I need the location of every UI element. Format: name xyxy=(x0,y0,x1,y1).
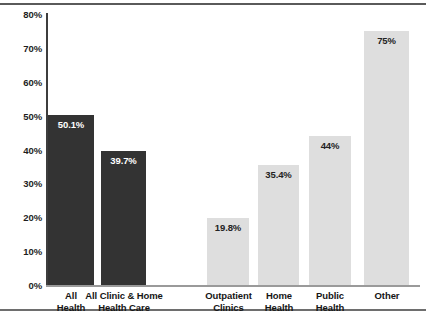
bar-value-label-public-health: 44% xyxy=(309,140,351,151)
y-axis-tick-50: 50% xyxy=(0,110,42,121)
bar-public-health[interactable] xyxy=(309,136,351,285)
category-label-line: Public xyxy=(303,290,357,302)
y-axis-tick-0: 0% xyxy=(0,280,42,291)
bar-value-label-all-health: 50.1% xyxy=(48,119,94,130)
y-axis-tick-40: 40% xyxy=(0,144,42,155)
y-axis-tick-60: 60% xyxy=(0,76,42,87)
category-label-line: All Clinic & Home xyxy=(82,290,166,302)
category-label-line: Clinics xyxy=(199,302,258,314)
bar-value-label-all-clinic-and-home-health-care: 39.7% xyxy=(101,155,146,166)
y-axis-tick-80: 80% xyxy=(0,9,42,20)
category-label-line: Health xyxy=(252,302,306,314)
bar-chart-figure: 0%10%20%30%40%50%60%70%80% 50.1%39.7%19.… xyxy=(0,0,426,315)
x-axis-baseline xyxy=(46,285,420,287)
bar-all-clinic-and-home-health-care[interactable] xyxy=(101,151,146,285)
bar-value-label-other: 75% xyxy=(364,35,409,46)
category-label-other: Other xyxy=(358,290,416,302)
y-axis-tick-10: 10% xyxy=(0,246,42,257)
y-axis-tick-20: 20% xyxy=(0,212,42,223)
category-label-all-clinic-and-home-health-care: All Clinic & HomeHealth Care xyxy=(82,290,166,313)
bar-other[interactable] xyxy=(364,31,409,285)
y-axis-tick-labels: 0%10%20%30%40%50%60%70%80% xyxy=(0,0,42,315)
y-axis-tick-30: 30% xyxy=(0,178,42,189)
bar-value-label-outpatient-clinics: 19.8% xyxy=(207,222,249,233)
category-label-line: Home xyxy=(252,290,306,302)
bar-value-label-home-health: 35.4% xyxy=(258,169,299,180)
category-label-public-health: PublicHealth xyxy=(303,290,357,313)
category-label-line: Outpatient xyxy=(199,290,258,302)
category-label-line: Health Care xyxy=(82,302,166,314)
y-axis-tick-70: 70% xyxy=(0,42,42,53)
bar-all-health[interactable] xyxy=(48,115,94,285)
category-label-line: Health xyxy=(303,302,357,314)
top-divider-rule xyxy=(0,3,426,5)
category-label-line: Other xyxy=(358,290,416,302)
category-label-outpatient-clinics: OutpatientClinics xyxy=(199,290,258,313)
category-label-home-health: HomeHealth xyxy=(252,290,306,313)
bar-home-health[interactable] xyxy=(258,165,299,285)
